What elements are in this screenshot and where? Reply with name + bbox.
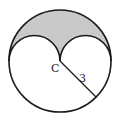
- shaded-region: [9, 10, 111, 61]
- diagram-canvas: C 3: [0, 0, 121, 124]
- geometry-diagram: C 3: [0, 0, 121, 124]
- radius-label: 3: [79, 72, 86, 85]
- radius-segment: [60, 61, 96, 97]
- center-label: C: [51, 62, 59, 75]
